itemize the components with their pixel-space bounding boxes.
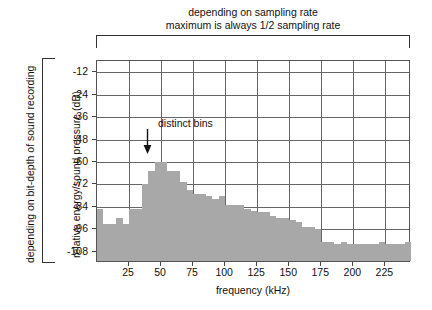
- y-tick-label: -72: [73, 178, 88, 189]
- y-tick-label: -48: [73, 133, 88, 144]
- x-tick-label: 125: [247, 266, 265, 278]
- x-tick-label: 100: [215, 266, 233, 278]
- y-tick-label: -96: [73, 223, 88, 234]
- plot-area: [96, 60, 410, 262]
- x-tick-label: 225: [376, 266, 394, 278]
- top-bracket-tick-right: [409, 35, 410, 48]
- y-tick-label: -108: [67, 246, 88, 257]
- x-tick-label: 150: [279, 266, 297, 278]
- x-tick-label: 75: [186, 266, 198, 278]
- y-tick-label: -60: [73, 156, 88, 167]
- x-tick-label: 50: [154, 266, 166, 278]
- x-axis-tick-labels: 255075100125150175200225: [0, 266, 432, 282]
- y-tick-label: -24: [73, 88, 88, 99]
- top-caption-line-2: maximum is always 1/2 sampling rate: [96, 19, 410, 32]
- top-bracket-bar: [96, 35, 410, 36]
- histogram-bars: [97, 61, 409, 261]
- y-tick-label: -84: [73, 201, 88, 212]
- figure-root: depending on sampling rate maximum is al…: [0, 0, 432, 310]
- y-axis-tick-labels: -12-24-36-48-60-72-84-96-108: [0, 0, 96, 310]
- y-tick-label: -12: [73, 66, 88, 77]
- x-tick-label: 175: [312, 266, 330, 278]
- top-caption-line-1: depending on sampling rate: [96, 6, 410, 19]
- y-tick-label: -36: [73, 111, 88, 122]
- x-tick-label: 200: [344, 266, 362, 278]
- top-caption: depending on sampling rate maximum is al…: [96, 6, 410, 32]
- top-bracket-tick-left: [96, 35, 97, 48]
- x-tick-label: 25: [122, 266, 134, 278]
- top-bracket: [96, 35, 410, 48]
- x-axis-title: frequency (kHz): [96, 284, 410, 296]
- histogram-bar: [405, 242, 411, 261]
